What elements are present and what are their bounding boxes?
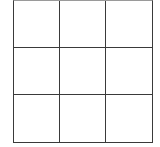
grid-cell-r2-c2[interactable] [60, 48, 106, 95]
grid-cell-r3-c1[interactable] [14, 95, 60, 142]
grid-cell-r3-c2[interactable] [60, 95, 106, 142]
grid-cell-r2-c1[interactable] [14, 48, 60, 95]
grid-cell-r3-c3[interactable] [106, 95, 152, 142]
grid-cell-r2-c3[interactable] [106, 48, 152, 95]
tic-tac-toe-grid [13, 0, 153, 143]
grid-cell-r1-c1[interactable] [14, 1, 60, 48]
grid-cell-r1-c2[interactable] [60, 1, 106, 48]
grid-cell-r1-c3[interactable] [106, 1, 152, 48]
